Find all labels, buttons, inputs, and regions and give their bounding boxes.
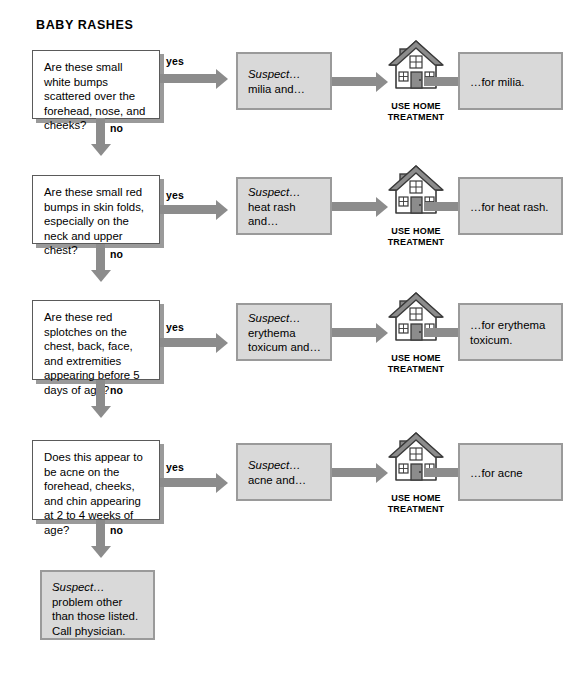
arrow-down-icon: [96, 520, 105, 546]
arrow-right-icon: [160, 478, 216, 487]
arrow-down-icon: [96, 244, 105, 270]
result-box-1[interactable]: …for milia.: [458, 52, 563, 110]
house-icon: [386, 38, 446, 96]
question-box-2[interactable]: Are these small red bumps in skin folds,…: [32, 175, 160, 244]
suspect-lead-3: Suspect…: [248, 311, 321, 326]
house-icon: [386, 290, 446, 348]
result-box-3[interactable]: …for erythema toxicum.: [458, 303, 563, 361]
flowchart-canvas: BABY RASHES Are these small white bumps …: [0, 0, 580, 674]
final-suspect-lead: Suspect…: [52, 580, 144, 595]
suspect-box-1[interactable]: Suspect… milia and…: [236, 52, 332, 110]
arrow-right-icon: [332, 468, 376, 477]
suspect-body-1: milia and…: [248, 82, 321, 97]
yes-label-2: yes: [166, 189, 184, 201]
suspect-box-2[interactable]: Suspect… heat rash and…: [236, 177, 332, 235]
result-box-4[interactable]: …for acne: [458, 443, 563, 501]
no-label-4: no: [110, 524, 123, 536]
arrow-down-icon: [96, 118, 105, 144]
home-caption-line2: TREATMENT: [388, 237, 445, 247]
question-text-2: Are these small red bumps in skin folds,…: [44, 186, 144, 256]
connector-segment: [424, 468, 460, 477]
suspect-body-4: acne and…: [248, 473, 321, 488]
result-text-3: …for erythema toxicum.: [470, 318, 552, 347]
arrow-right-icon: [160, 74, 216, 83]
result-text-4: …for acne: [470, 466, 552, 481]
final-suspect-box[interactable]: Suspect… problem other than those listed…: [40, 570, 155, 640]
home-caption-line2: TREATMENT: [388, 504, 445, 514]
yes-label-1: yes: [166, 55, 184, 67]
question-box-3[interactable]: Are these red splotches on the chest, ba…: [32, 300, 160, 380]
arrow-right-icon: [332, 202, 376, 211]
suspect-lead-1: Suspect…: [248, 67, 321, 82]
suspect-body-3: erythema toxicum and…: [248, 326, 321, 355]
home-caption-line2: TREATMENT: [388, 364, 445, 374]
no-label-1: no: [110, 122, 123, 134]
no-label-2: no: [110, 248, 123, 260]
question-text-1: Are these small white bumps scattered ov…: [44, 61, 145, 131]
question-text-3: Are these red splotches on the chest, ba…: [44, 311, 140, 396]
home-caption-line1: USE HOME: [391, 493, 441, 503]
arrow-right-icon: [332, 77, 376, 86]
home-caption-line1: USE HOME: [391, 353, 441, 363]
connector-segment: [424, 77, 460, 86]
house-icon: [386, 163, 446, 221]
home-caption-line2: TREATMENT: [388, 112, 445, 122]
suspect-box-3[interactable]: Suspect… erythema toxicum and…: [236, 303, 332, 361]
suspect-box-4[interactable]: Suspect… acne and…: [236, 443, 332, 501]
home-caption-line1: USE HOME: [391, 101, 441, 111]
page-title: BABY RASHES: [36, 18, 133, 32]
yes-label-4: yes: [166, 461, 184, 473]
house-icon: [386, 430, 446, 488]
question-box-1[interactable]: Are these small white bumps scattered ov…: [32, 50, 160, 119]
result-box-2[interactable]: …for heat rash.: [458, 177, 563, 235]
result-text-1: …for milia.: [470, 75, 552, 90]
result-text-2: …for heat rash.: [470, 200, 552, 215]
suspect-body-2: heat rash and…: [248, 200, 321, 229]
suspect-lead-4: Suspect…: [248, 458, 321, 473]
yes-label-3: yes: [166, 321, 184, 333]
arrow-right-icon: [160, 338, 216, 347]
question-box-4[interactable]: Does this appear to be acne on the foreh…: [32, 440, 160, 520]
no-label-3: no: [110, 384, 123, 396]
home-caption-line1: USE HOME: [391, 226, 441, 236]
arrow-down-icon: [96, 380, 105, 406]
suspect-lead-2: Suspect…: [248, 185, 321, 200]
connector-segment: [424, 202, 460, 211]
question-text-4: Does this appear to be acne on the foreh…: [44, 451, 143, 536]
connector-segment: [424, 328, 460, 337]
arrow-right-icon: [332, 328, 376, 337]
arrow-right-icon: [160, 205, 216, 214]
final-suspect-body: problem other than those listed. Call ph…: [52, 595, 144, 639]
